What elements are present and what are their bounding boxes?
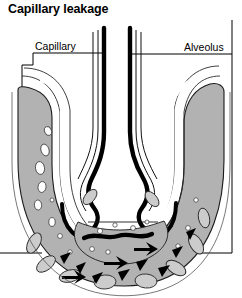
epithelium-right-main bbox=[130, 28, 147, 230]
particle bbox=[50, 198, 54, 202]
particle bbox=[97, 228, 102, 233]
alveolar-airway-fill bbox=[104, 28, 130, 226]
particle bbox=[58, 234, 63, 239]
particle bbox=[194, 198, 198, 202]
particle bbox=[106, 250, 110, 254]
particle bbox=[186, 226, 191, 231]
alveolar-lumen bbox=[104, 28, 130, 226]
particle bbox=[90, 247, 95, 252]
vesicle bbox=[49, 218, 55, 227]
particle bbox=[113, 223, 117, 227]
companion-left-outer2 bbox=[78, 32, 93, 179]
capillary-leakage-figure: Capillary leakage Capillary Alveolus bbox=[0, 0, 242, 298]
anatomical-illustration bbox=[0, 0, 242, 298]
particle bbox=[131, 226, 136, 231]
leak-streak bbox=[84, 234, 152, 238]
particle bbox=[145, 220, 149, 224]
